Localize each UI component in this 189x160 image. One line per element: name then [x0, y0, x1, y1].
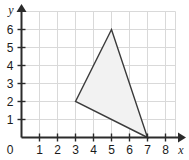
- ytick-label-4: 4: [7, 59, 14, 73]
- xtick-label-1: 1: [36, 143, 43, 157]
- origin-label: 0: [7, 143, 14, 157]
- xtick-label-5: 5: [108, 143, 115, 157]
- graph-canvas: 1 2 3 4 5 6 7 8 1 2 3 4 5 6 0 x y: [0, 0, 189, 160]
- ytick-label-2: 2: [7, 95, 14, 109]
- y-axis-label: y: [7, 3, 14, 17]
- ytick-label-1: 1: [7, 113, 14, 127]
- xtick-label-8: 8: [162, 143, 169, 157]
- ytick-label-3: 3: [7, 77, 14, 91]
- xtick-label-7: 7: [144, 143, 151, 157]
- x-axis-label: x: [177, 143, 184, 157]
- coordinate-plane-figure: 1 2 3 4 5 6 7 8 1 2 3 4 5 6 0 x y: [0, 0, 189, 160]
- xtick-label-4: 4: [90, 143, 97, 157]
- xtick-label-2: 2: [54, 143, 61, 157]
- xtick-label-3: 3: [72, 143, 79, 157]
- ytick-label-6: 6: [7, 23, 14, 37]
- xtick-label-6: 6: [126, 143, 133, 157]
- ytick-label-5: 5: [7, 41, 14, 55]
